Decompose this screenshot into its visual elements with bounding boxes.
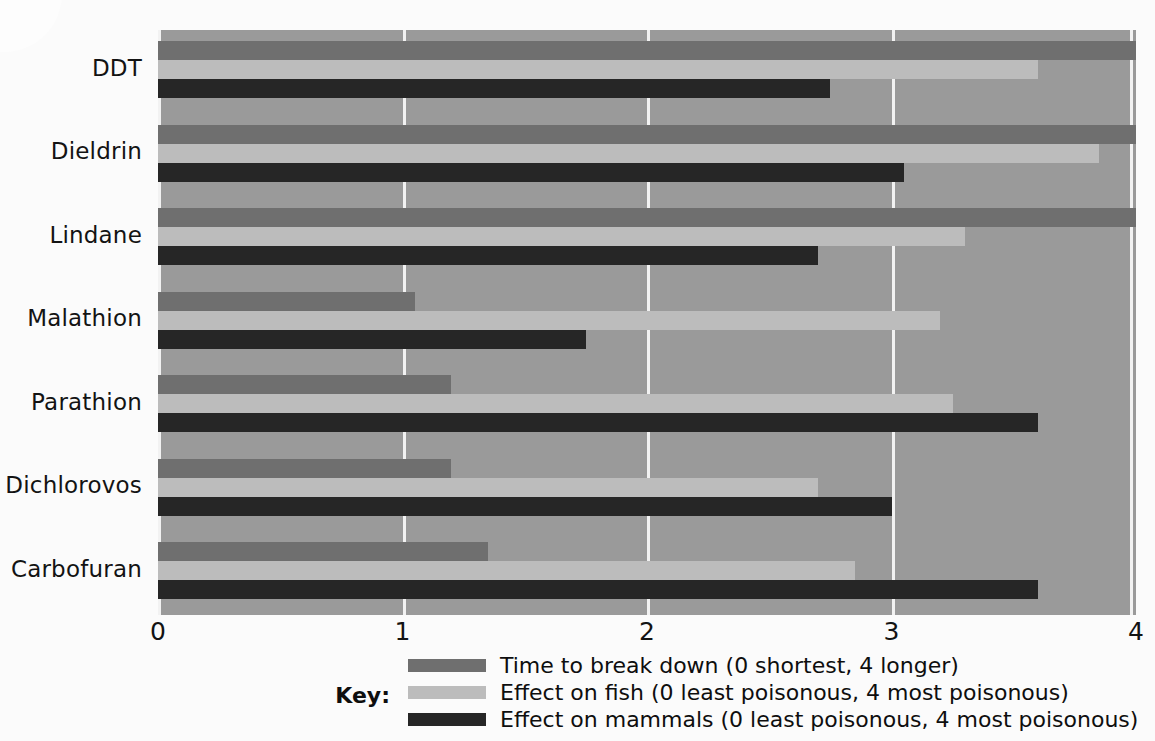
y-axis-label-ddt: DDT [92, 55, 142, 81]
legend-item: Time to break down (0 shortest, 4 longer… [408, 652, 1138, 679]
y-axis-label-lindane: Lindane [49, 222, 142, 248]
bar [158, 163, 904, 182]
bar [158, 311, 940, 330]
bar [158, 125, 1136, 144]
bar-series-container [158, 30, 1136, 615]
bar-group [158, 364, 1136, 448]
chart-legend: Key: Time to break down (0 shortest, 4 l… [218, 652, 1098, 738]
bar [158, 459, 451, 478]
bar-group [158, 448, 1136, 532]
x-axis-tick-4: 4 [1128, 617, 1144, 646]
bar [158, 144, 1099, 163]
y-axis-label-carbofuran: Carbofuran [11, 556, 142, 582]
bar [158, 542, 488, 561]
bar [158, 227, 965, 246]
x-axis-tick-labels: 01234 [158, 617, 1136, 653]
y-axis-label-dieldrin: Dieldrin [51, 138, 142, 164]
legend-key-label: Key: [218, 683, 390, 708]
bar [158, 330, 586, 349]
bar [158, 561, 855, 580]
bar [158, 60, 1038, 79]
legend-swatch-icon [408, 686, 486, 699]
bar-group [158, 30, 1136, 114]
legend-swatch-icon [408, 713, 486, 726]
bar [158, 208, 1136, 227]
legend-item-label: Time to break down (0 shortest, 4 longer… [500, 655, 959, 677]
plot-area [158, 30, 1136, 615]
y-axis-label-malathion: Malathion [27, 305, 142, 331]
bar [158, 497, 892, 516]
x-axis-tick-2: 2 [639, 617, 655, 646]
legend-item: Effect on fish (0 least poisonous, 4 mos… [408, 679, 1138, 706]
bar [158, 478, 818, 497]
legend-item: Effect on mammals (0 least poisonous, 4 … [408, 706, 1138, 733]
bar-group [158, 197, 1136, 281]
bar-group [158, 531, 1136, 615]
chart-page: DDTDieldrinLindaneMalathionParathionDich… [0, 0, 1155, 741]
bar-group [158, 281, 1136, 365]
y-axis-label-dichlorovos: Dichlorovos [5, 472, 142, 498]
bar [158, 246, 818, 265]
x-axis-tick-3: 3 [884, 617, 900, 646]
y-axis-label-parathion: Parathion [31, 389, 142, 415]
bar [158, 394, 953, 413]
x-axis-tick-0: 0 [150, 617, 166, 646]
bar [158, 41, 1136, 60]
bar [158, 413, 1038, 432]
legend-swatch-icon [408, 659, 486, 672]
bar [158, 292, 415, 311]
y-axis-labels: DDTDieldrinLindaneMalathionParathionDich… [0, 30, 150, 615]
legend-item-label: Effect on mammals (0 least poisonous, 4 … [500, 709, 1138, 731]
x-axis-tick-1: 1 [395, 617, 411, 646]
bar [158, 580, 1038, 599]
legend-entries: Time to break down (0 shortest, 4 longer… [408, 652, 1138, 733]
bar [158, 375, 451, 394]
bar-group [158, 114, 1136, 198]
bar [158, 79, 830, 98]
legend-item-label: Effect on fish (0 least poisonous, 4 mos… [500, 682, 1069, 704]
